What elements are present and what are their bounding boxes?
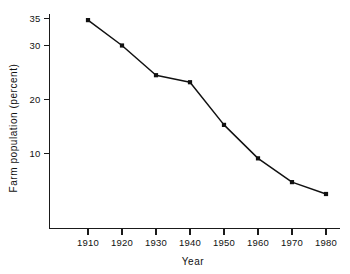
line-chart: 35302010 1910192019301940195019601970198… <box>0 0 350 274</box>
data-point <box>120 43 124 47</box>
data-point <box>222 123 226 127</box>
data-point <box>324 192 328 196</box>
x-tick-label: 1970 <box>281 237 303 248</box>
y-tick-label: 20 <box>30 94 41 105</box>
data-point <box>256 156 260 160</box>
x-tick-label: 1920 <box>111 237 133 248</box>
data-point <box>154 73 158 77</box>
chart-figure: 35302010 1910192019301940195019601970198… <box>0 0 350 274</box>
y-tick-label: 35 <box>30 13 41 24</box>
y-axis-title: Farm population (percent) <box>8 64 19 193</box>
data-point <box>290 180 294 184</box>
x-tick-label: 1940 <box>179 237 201 248</box>
data-point <box>188 80 192 84</box>
data-point <box>86 18 90 22</box>
x-tick-label: 1930 <box>145 237 167 248</box>
x-tick-label: 1980 <box>315 237 337 248</box>
x-axis-title: Year <box>182 256 205 267</box>
x-tick-label: 1910 <box>77 237 99 248</box>
y-tick-label: 10 <box>30 148 41 159</box>
x-tick-label: 1950 <box>213 237 235 248</box>
x-tick-label: 1960 <box>247 237 269 248</box>
y-tick-label: 30 <box>30 40 41 51</box>
plot-background <box>0 0 350 274</box>
